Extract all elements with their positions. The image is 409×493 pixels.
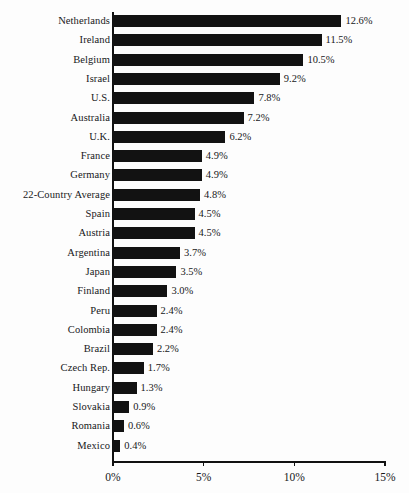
bar [113, 266, 176, 278]
bar-value-label: 4.5% [199, 227, 221, 239]
bar [113, 54, 303, 66]
bar-category-label: Israel [0, 73, 110, 85]
bar-category-label: Ireland [0, 34, 110, 46]
bar-value-label: 4.5% [199, 208, 221, 220]
bar [113, 208, 195, 220]
bar-row: Germany4.9% [0, 168, 409, 187]
bar-category-label: Romania [0, 420, 110, 432]
bar-row: U.S.7.8% [0, 91, 409, 110]
x-axis-line [112, 461, 386, 463]
bar-row: Finland3.0% [0, 284, 409, 303]
x-axis-tick [203, 461, 205, 466]
bar-category-label: Mexico [0, 440, 110, 452]
x-axis-tick-label: 15% [363, 470, 407, 484]
bar-value-label: 4.9% [206, 150, 228, 162]
bar-row: 22-Country Average4.8% [0, 188, 409, 207]
bar-value-label: 11.5% [326, 34, 353, 46]
bar [113, 73, 280, 85]
bar-value-label: 3.5% [180, 266, 202, 278]
bar-row: Mexico0.4% [0, 439, 409, 458]
bar-category-label: Belgium [0, 54, 110, 66]
bar-value-label: 0.4% [124, 440, 146, 452]
bar-row: Austria4.5% [0, 226, 409, 245]
bar-category-label: France [0, 150, 110, 162]
bar-value-label: 1.3% [141, 382, 163, 394]
bar-value-label: 4.9% [206, 169, 228, 181]
bar [113, 343, 153, 355]
bar [113, 150, 202, 162]
bar [113, 227, 195, 239]
bar-category-label: Finland [0, 285, 110, 297]
bar-row: Netherlands12.6% [0, 14, 409, 33]
x-axis-tick [384, 461, 386, 466]
bar-category-label: Colombia [0, 324, 110, 336]
bar-value-label: 0.9% [133, 401, 155, 413]
bar [113, 131, 225, 143]
bar-value-label: 4.8% [204, 189, 226, 201]
bar-value-label: 0.6% [128, 420, 150, 432]
bar-category-label: Hungary [0, 382, 110, 394]
bar [113, 420, 124, 432]
bar-row: U.K.6.2% [0, 130, 409, 149]
bar-category-label: Germany [0, 169, 110, 181]
bar-row: Czech Rep.1.7% [0, 361, 409, 380]
bar-category-label: U.S. [0, 92, 110, 104]
bar-value-label: 2.4% [161, 324, 183, 336]
bar-row: Australia7.2% [0, 111, 409, 130]
bar-category-label: Argentina [0, 247, 110, 259]
bar-row: Romania0.6% [0, 419, 409, 438]
bar [113, 169, 202, 181]
bar-value-label: 6.2% [229, 131, 251, 143]
plot-area: Netherlands12.6%Ireland11.5%Belgium10.5%… [0, 0, 409, 493]
bar-category-label: Czech Rep. [0, 362, 110, 374]
x-axis-tick [294, 461, 296, 466]
bar [113, 15, 341, 27]
bar-value-label: 1.7% [148, 362, 170, 374]
bar-row: Japan3.5% [0, 265, 409, 284]
bar-chart: Netherlands12.6%Ireland11.5%Belgium10.5%… [0, 0, 409, 493]
bar [113, 112, 244, 124]
bar-value-label: 3.0% [171, 285, 193, 297]
bar [113, 189, 200, 201]
bar [113, 92, 254, 104]
bar-row: Colombia2.4% [0, 323, 409, 342]
bar-row: Argentina3.7% [0, 246, 409, 265]
bar [113, 440, 120, 452]
bar-category-label: U.K. [0, 131, 110, 143]
bar-value-label: 9.2% [284, 73, 306, 85]
bar-category-label: Brazil [0, 343, 110, 355]
bar-value-label: 2.4% [161, 305, 183, 317]
x-axis-tick-label: 5% [182, 470, 226, 484]
bar-category-label: Slovakia [0, 401, 110, 413]
bar-value-label: 2.2% [157, 343, 179, 355]
bar-row: Peru2.4% [0, 304, 409, 323]
x-axis-tick-label: 10% [272, 470, 316, 484]
bar [113, 324, 157, 336]
bar [113, 305, 157, 317]
x-axis-tick [112, 461, 114, 466]
bar [113, 401, 129, 413]
bar-row: Ireland11.5% [0, 33, 409, 52]
bar [113, 382, 137, 394]
bar [113, 34, 322, 46]
bar-category-label: Australia [0, 112, 110, 124]
bar [113, 362, 144, 374]
bar [113, 247, 180, 259]
bar-value-label: 3.7% [184, 247, 206, 259]
bar [113, 285, 167, 297]
x-axis-tick-label: 0% [91, 470, 135, 484]
bar-row: Belgium10.5% [0, 53, 409, 72]
bar-row: Israel9.2% [0, 72, 409, 91]
bar-value-label: 7.8% [258, 92, 280, 104]
bar-category-label: 22-Country Average [0, 189, 110, 201]
bar-row: Spain4.5% [0, 207, 409, 226]
bar-value-label: 7.2% [248, 112, 270, 124]
bar-value-label: 10.5% [307, 54, 334, 66]
bar-row: Slovakia0.9% [0, 400, 409, 419]
bar-category-label: Netherlands [0, 15, 110, 27]
bar-row: Hungary1.3% [0, 381, 409, 400]
bar-row: Brazil2.2% [0, 342, 409, 361]
bar-category-label: Spain [0, 208, 110, 220]
bar-category-label: Austria [0, 227, 110, 239]
bar-row: France4.9% [0, 149, 409, 168]
